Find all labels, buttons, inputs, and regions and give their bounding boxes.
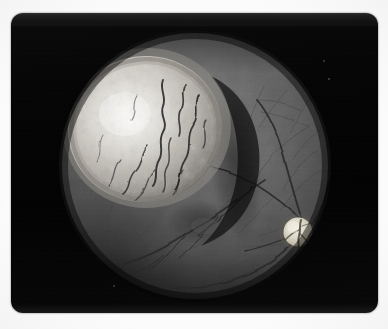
fundus-field <box>59 30 331 302</box>
photo-print-frame <box>11 13 378 313</box>
screenshot-root <box>0 0 388 329</box>
print-top-sheen <box>11 13 378 27</box>
fundus-image <box>59 30 331 302</box>
print-bottom-sheen <box>11 304 378 313</box>
